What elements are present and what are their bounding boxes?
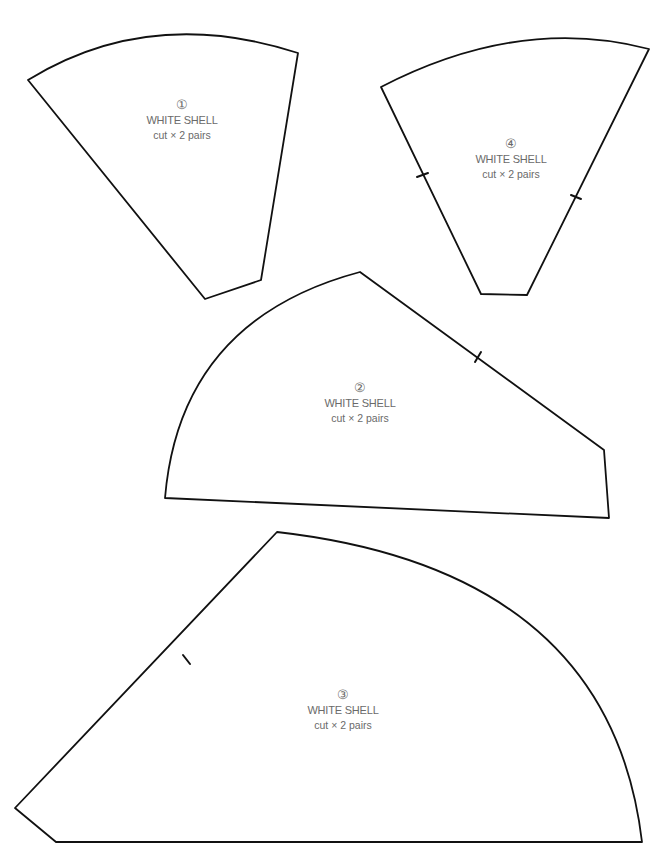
piece-name: WHITE SHELL — [146, 113, 217, 128]
pattern-piece-1 — [28, 34, 298, 299]
pattern-sheet — [0, 0, 666, 863]
piece-number: ④ — [475, 136, 546, 152]
piece-label-2: ② WHITE SHELL cut × 2 pairs — [324, 380, 395, 425]
piece-label-4: ④ WHITE SHELL cut × 2 pairs — [475, 136, 546, 181]
cut-instruction: cut × 2 pairs — [307, 718, 378, 732]
cut-instruction: cut × 2 pairs — [146, 128, 217, 142]
cut-instruction: cut × 2 pairs — [324, 411, 395, 425]
piece-label-3: ③ WHITE SHELL cut × 2 pairs — [307, 687, 378, 732]
piece-number: ③ — [307, 687, 378, 703]
cut-instruction: cut × 2 pairs — [475, 167, 546, 181]
piece-label-1: ① WHITE SHELL cut × 2 pairs — [146, 97, 217, 142]
piece-name: WHITE SHELL — [324, 396, 395, 411]
piece-number: ① — [146, 97, 217, 113]
piece-name: WHITE SHELL — [307, 703, 378, 718]
piece-name: WHITE SHELL — [475, 152, 546, 167]
piece-number: ② — [324, 380, 395, 396]
